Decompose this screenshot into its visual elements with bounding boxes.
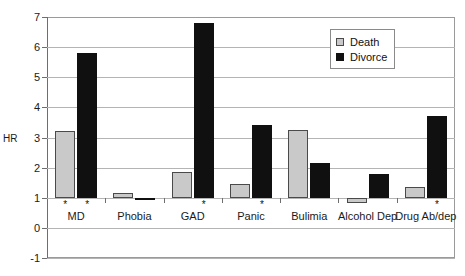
y-axis-tick	[42, 198, 47, 199]
x-axis-label-bulimia: Bulimia	[291, 210, 327, 222]
significance-marker: *	[202, 202, 206, 208]
gridline	[47, 77, 455, 78]
bar-bulimia-divorce	[310, 163, 330, 198]
legend-item-death: Death	[336, 34, 387, 49]
gridline	[47, 138, 455, 139]
significance-marker: *	[260, 202, 264, 208]
y-axis-tick-label: 0	[34, 222, 40, 234]
bar-alcohol-dep-divorce	[369, 174, 389, 197]
y-axis-tick-label: 5	[34, 71, 40, 83]
x-axis-label-panic: Panic	[237, 210, 265, 222]
y-axis-tick-label: 4	[34, 101, 40, 113]
gridline	[47, 168, 455, 169]
x-axis-tick	[222, 198, 223, 203]
divorce-swatch	[336, 53, 344, 61]
y-axis-tick	[42, 47, 47, 48]
y-axis-tick-label: 1	[34, 192, 40, 204]
gridline	[47, 228, 455, 229]
bar-md-death	[55, 131, 75, 197]
legend-label: Divorce	[350, 51, 387, 63]
y-axis-tick	[42, 258, 47, 259]
x-axis-tick	[105, 198, 106, 203]
x-axis-label-drug-ab-dep: Drug Ab/dep	[395, 210, 456, 222]
y-axis-tick	[42, 77, 47, 78]
y-axis-tick	[42, 168, 47, 169]
x-axis-tick	[338, 198, 339, 203]
x-axis-tick	[164, 198, 165, 203]
chart-legend: DeathDivorce	[330, 29, 395, 69]
bar-bulimia-death	[288, 130, 308, 198]
bar-drug-ab-dep-death	[405, 187, 425, 198]
y-axis-tick	[42, 107, 47, 108]
bar-alcohol-dep-death	[347, 198, 367, 203]
y-axis-tick	[42, 228, 47, 229]
y-axis-tick-label: 6	[34, 41, 40, 53]
y-axis-tick	[42, 138, 47, 139]
x-axis-label-phobia: Phobia	[117, 210, 151, 222]
gridline	[47, 198, 455, 199]
legend-label: Death	[350, 36, 379, 48]
y-axis-tick	[42, 17, 47, 18]
bar-panic-divorce	[252, 125, 272, 197]
death-swatch	[336, 38, 344, 46]
bar-drug-ab-dep-divorce	[427, 116, 447, 197]
gridline	[47, 258, 455, 259]
y-axis-tick-label: 3	[34, 132, 40, 144]
significance-marker: *	[63, 202, 67, 208]
x-axis-tick	[280, 198, 281, 203]
x-axis-label-alcohol-dep: Alcohol Dep	[338, 210, 397, 222]
x-axis-tick	[397, 198, 398, 203]
x-axis-label-md: MD	[68, 210, 85, 222]
x-axis-label-gad: GAD	[181, 210, 205, 222]
y-axis-tick-label: 2	[34, 162, 40, 174]
bar-panic-death	[230, 184, 250, 198]
y-axis-title: HR	[3, 132, 17, 143]
y-axis-tick-label: -1	[30, 252, 40, 264]
gridline	[47, 107, 455, 108]
bar-gad-divorce	[194, 23, 214, 198]
bar-md-divorce	[77, 53, 97, 198]
significance-marker: *	[85, 202, 89, 208]
y-axis-tick-label: 7	[34, 11, 40, 23]
bar-gad-death	[172, 172, 192, 198]
legend-item-divorce: Divorce	[336, 49, 387, 64]
significance-marker: *	[435, 202, 439, 208]
bar-chart-figure: 76543210-1HR**MDPhobia*GAD*PanicBulimiaA…	[0, 0, 465, 276]
bar-phobia-divorce	[135, 198, 155, 200]
bar-phobia-death	[113, 193, 133, 198]
